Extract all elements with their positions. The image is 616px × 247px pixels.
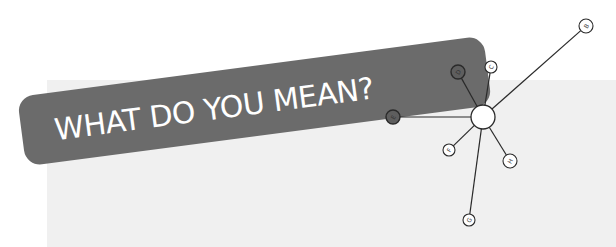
edge-hub-F — [453, 125, 474, 145]
node-d: D — [451, 65, 465, 79]
illustration: WHAT DO YOU MEAN? BCDEFGH — [0, 0, 616, 247]
hub-node — [471, 105, 495, 129]
node-e: E — [386, 110, 400, 124]
diagram-nodes: BCDEFGH — [386, 19, 593, 226]
node-g: G — [463, 214, 475, 226]
node-h: H — [503, 154, 517, 168]
edge-hub-D — [461, 78, 477, 106]
node-c: C — [485, 61, 497, 73]
node-b: B — [579, 19, 593, 33]
edge-hub-B — [492, 31, 581, 109]
node-f: F — [443, 144, 455, 156]
edge-hub-H — [489, 127, 506, 155]
star-diagram: BCDEFGH — [0, 0, 616, 247]
edge-hub-C — [485, 73, 490, 105]
edge-hub-G — [470, 129, 482, 214]
